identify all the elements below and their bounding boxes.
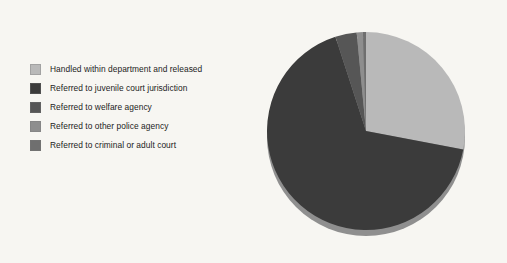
pie-chart-svg [262,22,477,247]
legend-item[interactable]: Referred to criminal or adult court [30,136,245,155]
legend-swatch-other-police-agency [30,121,41,132]
legend-item[interactable]: Referred to juvenile court jurisdiction [30,79,245,98]
legend-label: Referred to welfare agency [50,102,152,113]
legend-label: Referred to other police agency [50,121,168,132]
pie-chart [262,22,477,247]
legend-label: Referred to criminal or adult court [50,140,176,151]
legend-swatch-welfare-agency [30,102,41,113]
legend-label: Referred to juvenile court jurisdiction [50,83,187,94]
legend-swatch-handled-within-department [30,64,41,75]
legend-swatch-criminal-adult-court [30,140,41,151]
legend-label: Handled within department and released [50,64,202,75]
legend-item[interactable]: Referred to welfare agency [30,98,245,117]
legend-item[interactable]: Referred to other police agency [30,117,245,136]
pie-slice[interactable] [366,32,465,150]
legend-item[interactable]: Handled within department and released [30,60,245,79]
chart-canvas: Handled within department and released R… [0,0,507,263]
chart-legend: Handled within department and released R… [30,60,245,155]
pie-slice-group [267,32,465,230]
legend-swatch-juvenile-court [30,83,41,94]
